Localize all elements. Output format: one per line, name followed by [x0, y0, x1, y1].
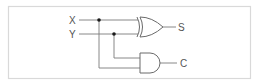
input-label-y: Y: [69, 29, 76, 40]
output-label-c: C: [180, 58, 187, 69]
junction-x: [97, 18, 101, 22]
input-label-x: X: [69, 15, 76, 26]
junction-y: [112, 32, 116, 36]
and-gate: [140, 53, 160, 73]
half-adder-diagram: X Y S C: [0, 0, 258, 83]
output-label-s: S: [178, 22, 185, 33]
